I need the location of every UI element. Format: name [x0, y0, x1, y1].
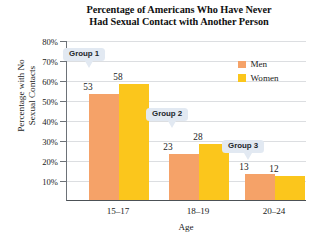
legend-label-women: Women: [251, 74, 279, 83]
legend-swatch-women-icon: [238, 74, 246, 82]
y-tick-label-20: 20%: [18, 158, 58, 167]
bar-value-women-20-24: 12: [259, 165, 289, 174]
chart-legend: Men Women: [238, 60, 279, 87]
chart-title-line-1: Percentage of Americans Who Have Never: [50, 4, 308, 16]
y-tick-label-60: 60%: [18, 78, 58, 87]
x-category-15-17: 15–17: [88, 207, 148, 216]
bar-value-women-18-19: 28: [183, 133, 213, 142]
legend-swatch-men-icon: [238, 61, 246, 69]
legend-item-women: Women: [238, 74, 279, 83]
bar-value-men-15-17: 53: [73, 83, 103, 92]
gridline-80: [67, 41, 306, 42]
callout-group-1-tail-icon: [85, 61, 93, 68]
bar-value-women-15-17: 58: [103, 73, 133, 82]
callout-group-3-label: Group 3: [222, 140, 264, 153]
y-tick-label-80: 80%: [18, 38, 58, 47]
y-tick-label-70: 70%: [18, 58, 58, 67]
y-tick-label-10: 10%: [18, 178, 58, 187]
callout-group-1: Group 1: [63, 48, 105, 61]
y-tick-label-40: 40%: [18, 118, 58, 127]
chart-title: Percentage of Americans Who Have Never H…: [50, 4, 308, 29]
callout-group-3: Group 3: [222, 140, 264, 153]
callout-group-1-label: Group 1: [63, 48, 105, 61]
y-tick-label-30: 30%: [18, 138, 58, 147]
chart-title-line-2: Had Sexual Contact with Another Person: [50, 16, 308, 28]
callout-group-3-tail-icon: [244, 153, 252, 160]
x-category-18-19: 18–19: [168, 207, 228, 216]
bar-value-men-20-24: 13: [229, 163, 259, 172]
x-category-20-24: 20–24: [244, 207, 304, 216]
callout-group-2-tail-icon: [168, 121, 176, 128]
y-tick-label-50: 50%: [18, 98, 58, 107]
callout-group-2: Group 2: [146, 108, 188, 121]
bar-men-15-17: [89, 94, 119, 200]
legend-item-men: Men: [238, 60, 279, 69]
callout-group-2-label: Group 2: [146, 108, 188, 121]
bar-men-20-24: [245, 174, 275, 200]
bar-women-15-17: [119, 84, 149, 200]
bar-value-men-18-19: 23: [153, 143, 183, 152]
bar-men-18-19: [169, 154, 199, 200]
bar-chart-figure: Percentage of Americans Who Have Never H…: [0, 0, 314, 245]
legend-label-men: Men: [251, 60, 268, 69]
bar-women-20-24: [275, 176, 305, 200]
x-axis-title: Age: [66, 222, 306, 232]
